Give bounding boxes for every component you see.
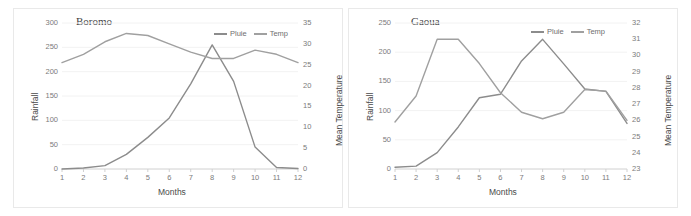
x-tick-5: 5: [138, 174, 158, 182]
x-tick-12: 12: [617, 174, 637, 182]
x-tick-4: 4: [116, 174, 136, 182]
y-tick-left-50: 50: [349, 136, 391, 144]
x-tick-1: 1: [52, 174, 72, 182]
x-tick-5: 5: [469, 174, 489, 182]
series-line-temp: [62, 33, 298, 62]
y-tick-right-15: 15: [303, 102, 311, 110]
x-tick-11: 11: [596, 174, 616, 182]
y-tick-right-29: 29: [632, 68, 640, 76]
y-tick-left-50: 50: [14, 141, 58, 149]
charts-page: Boromo Rainfall Mean Temperature Months …: [0, 0, 691, 216]
x-tick-1: 1: [385, 174, 405, 182]
x-tick-6: 6: [159, 174, 179, 182]
y-tick-right-5: 5: [303, 144, 307, 152]
x-tick-3: 3: [427, 174, 447, 182]
y-tick-right-20: 20: [303, 82, 311, 90]
x-tick-4: 4: [448, 174, 468, 182]
y-tick-right-27: 27: [632, 100, 640, 108]
y-tick-right-30: 30: [632, 51, 640, 59]
x-tick-8: 8: [533, 174, 553, 182]
y-tick-right-0: 0: [303, 165, 307, 173]
y-tick-left-200: 200: [349, 48, 391, 56]
y-tick-left-150: 150: [349, 77, 391, 85]
y-tick-right-26: 26: [632, 116, 640, 124]
x-tick-6: 6: [490, 174, 510, 182]
y-tick-right-25: 25: [303, 61, 311, 69]
x-tick-11: 11: [267, 174, 287, 182]
x-tick-10: 10: [245, 174, 265, 182]
x-tick-8: 8: [202, 174, 222, 182]
y-tick-left-100: 100: [349, 107, 391, 115]
y-tick-right-28: 28: [632, 84, 640, 92]
y-tick-left-200: 200: [14, 68, 58, 76]
x-tick-2: 2: [73, 174, 93, 182]
series-line-pluie: [62, 45, 298, 169]
y-tick-right-24: 24: [632, 149, 640, 157]
y-tick-right-35: 35: [303, 19, 311, 27]
x-tick-9: 9: [224, 174, 244, 182]
y-tick-left-250: 250: [349, 19, 391, 27]
x-tick-3: 3: [95, 174, 115, 182]
y-tick-left-0: 0: [349, 165, 391, 173]
y-tick-left-300: 300: [14, 19, 58, 27]
y-tick-right-25: 25: [632, 133, 640, 141]
x-tick-7: 7: [181, 174, 201, 182]
x-tick-2: 2: [406, 174, 426, 182]
chart-panel-boromo: Boromo Rainfall Mean Temperature Months …: [13, 8, 343, 208]
y-tick-right-31: 31: [632, 35, 640, 43]
series-line-temp: [395, 39, 627, 122]
y-tick-left-100: 100: [14, 116, 58, 124]
y-tick-right-30: 30: [303, 40, 311, 48]
y-tick-right-32: 32: [632, 19, 640, 27]
x-tick-12: 12: [288, 174, 308, 182]
y-tick-left-250: 250: [14, 43, 58, 51]
y-tick-right-23: 23: [632, 165, 640, 173]
x-tick-9: 9: [554, 174, 574, 182]
x-tick-10: 10: [575, 174, 595, 182]
x-tick-7: 7: [512, 174, 532, 182]
y-tick-left-150: 150: [14, 92, 58, 100]
chart-panel-gaoua: Gaoua Rainfall Mean Temperature Months P…: [348, 8, 678, 208]
y-tick-left-0: 0: [14, 165, 58, 173]
y-tick-right-10: 10: [303, 123, 311, 131]
